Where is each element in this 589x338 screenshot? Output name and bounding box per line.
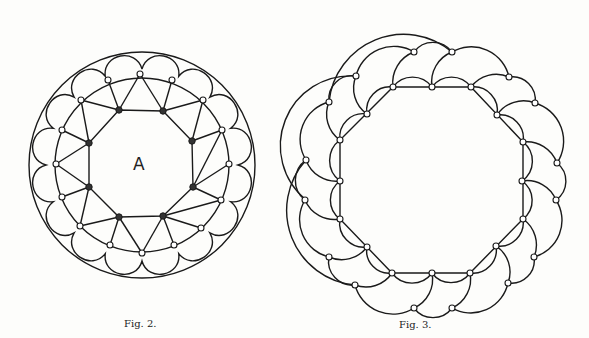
figure-plate: A Fig. 2. Fig. 3. <box>0 0 589 338</box>
fig2-caption: Fig. 2. <box>124 318 156 329</box>
figures-drawing <box>0 0 589 338</box>
fig3-diagram <box>280 34 566 317</box>
fig3-caption: Fig. 3. <box>399 319 431 330</box>
center-label-a: A <box>133 154 145 174</box>
